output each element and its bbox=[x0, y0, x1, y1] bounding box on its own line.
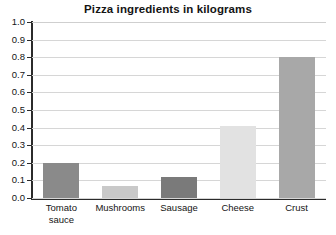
y-axis-tick-label: 0.8 bbox=[0, 52, 25, 62]
bar bbox=[161, 177, 197, 198]
y-axis-tick-label: 0.7 bbox=[0, 70, 25, 80]
y-axis-tick-mark bbox=[27, 40, 31, 41]
x-axis-label: Crust bbox=[267, 202, 326, 214]
x-axis-label: Sausage bbox=[150, 202, 209, 214]
bar bbox=[43, 163, 79, 198]
plot-area bbox=[32, 22, 326, 198]
y-axis-tick-mark bbox=[27, 57, 31, 58]
y-axis-tick-mark bbox=[27, 198, 31, 199]
y-axis-tick-mark bbox=[27, 180, 31, 181]
chart-title: Pizza ingredients in kilograms bbox=[0, 3, 336, 15]
y-axis-tick-label: 0.0 bbox=[0, 193, 25, 203]
gridline bbox=[32, 22, 326, 23]
bar-chart: Pizza ingredients in kilograms 0.00.10.2… bbox=[0, 0, 336, 235]
bar bbox=[220, 126, 256, 198]
x-axis-label: Cheese bbox=[208, 202, 267, 214]
y-axis-tick-mark bbox=[27, 163, 31, 164]
y-axis-tick-mark bbox=[27, 110, 31, 111]
bar bbox=[102, 186, 138, 198]
y-axis-tick-mark bbox=[27, 128, 31, 129]
y-axis-tick-mark bbox=[27, 22, 31, 23]
y-axis-tick-mark bbox=[27, 75, 31, 76]
y-axis-tick-label: 0.5 bbox=[0, 105, 25, 115]
y-axis-tick-label: 0.6 bbox=[0, 87, 25, 97]
bar bbox=[279, 57, 315, 198]
gridline bbox=[32, 198, 326, 199]
y-axis-tick-label: 0.1 bbox=[0, 175, 25, 185]
x-axis-label: Mushrooms bbox=[91, 202, 150, 214]
x-axis-label: Tomato sauce bbox=[32, 202, 91, 225]
y-axis-tick-label: 1.0 bbox=[0, 17, 25, 27]
y-axis-tick-label: 0.3 bbox=[0, 140, 25, 150]
y-axis-tick-label: 0.9 bbox=[0, 35, 25, 45]
gridline bbox=[32, 40, 326, 41]
y-axis-tick-mark bbox=[27, 92, 31, 93]
y-axis-tick-label: 0.2 bbox=[0, 158, 25, 168]
y-axis-tick-mark bbox=[27, 145, 31, 146]
y-axis-tick-label: 0.4 bbox=[0, 123, 25, 133]
